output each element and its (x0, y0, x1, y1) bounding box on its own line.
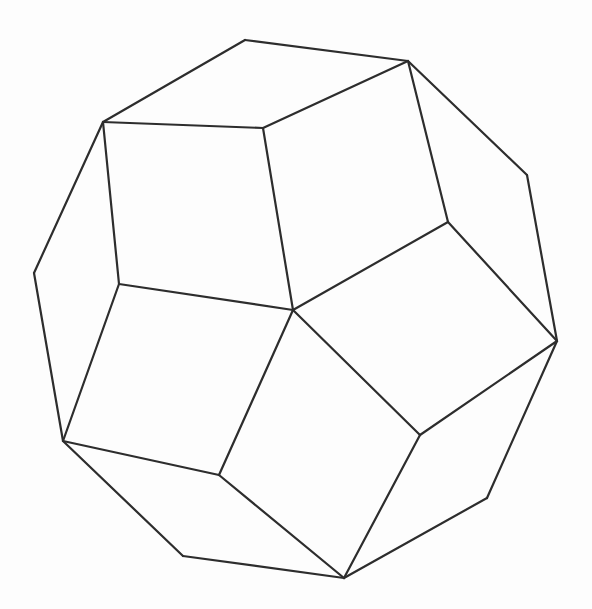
edge-C-M5 (119, 284, 293, 310)
edge-M5-TL (103, 122, 119, 284)
polyhedron-figure (0, 0, 592, 609)
edge-L1-TL (34, 122, 103, 273)
edge-C-M4 (219, 310, 293, 475)
edge-M5-L2 (63, 284, 119, 441)
edge-L2-L1 (34, 273, 63, 441)
page-background (0, 0, 592, 609)
edge-C-M1 (263, 128, 293, 310)
edge-T2-R1 (408, 61, 527, 175)
edge-TL-T1 (103, 40, 245, 122)
edge-M2-R2 (448, 222, 557, 341)
edge-C-M3 (293, 310, 420, 435)
edge-C-M2 (293, 222, 448, 310)
edge-M4-L2 (63, 441, 219, 475)
edge-M2-T2 (408, 61, 448, 222)
edge-T1-T2 (245, 40, 408, 61)
edge-layer (34, 40, 557, 578)
edge-B3-L2 (63, 441, 183, 556)
edge-R1-R2 (527, 175, 557, 341)
edge-M1-T2 (263, 61, 408, 128)
edge-M1-TL (103, 122, 263, 128)
